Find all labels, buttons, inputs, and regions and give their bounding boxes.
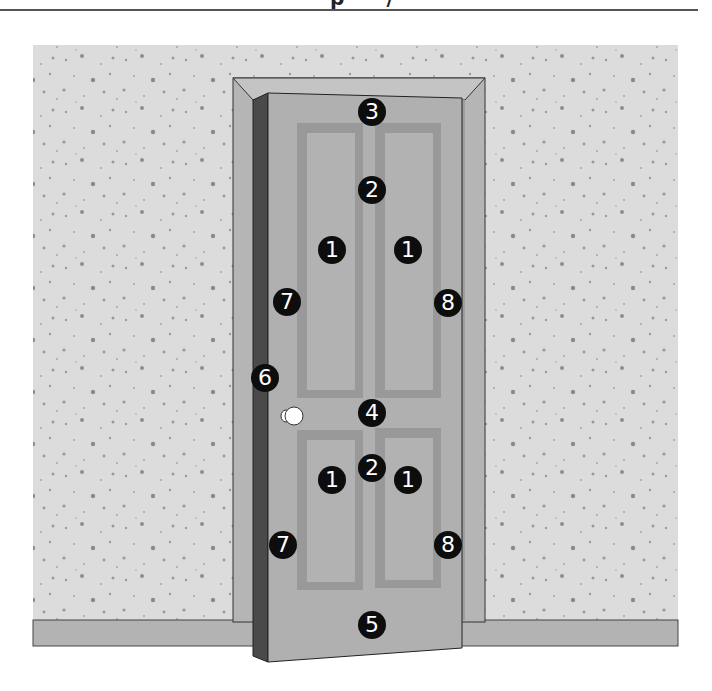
callout-marker-2: 2 — [358, 454, 386, 482]
callout-marker-5: 5 — [358, 611, 386, 639]
callout-marker-4: 4 — [358, 399, 386, 427]
callout-marker-1: 1 — [318, 466, 346, 494]
callout-marker-3: 3 — [358, 98, 386, 126]
callout-marker-6: 6 — [251, 364, 279, 392]
callout-marker-8: 8 — [434, 531, 462, 559]
callout-marker-1: 1 — [394, 466, 422, 494]
lower-left-panel — [297, 430, 363, 590]
lower-right-panel — [375, 428, 441, 588]
callout-marker-1: 1 — [394, 236, 422, 264]
callout-marker-2: 2 — [358, 176, 386, 204]
callout-marker-1: 1 — [318, 236, 346, 264]
door-diagram — [0, 0, 712, 691]
callout-marker-7: 7 — [273, 288, 301, 316]
callout-marker-8: 8 — [434, 289, 462, 317]
callout-marker-7: 7 — [269, 531, 297, 559]
